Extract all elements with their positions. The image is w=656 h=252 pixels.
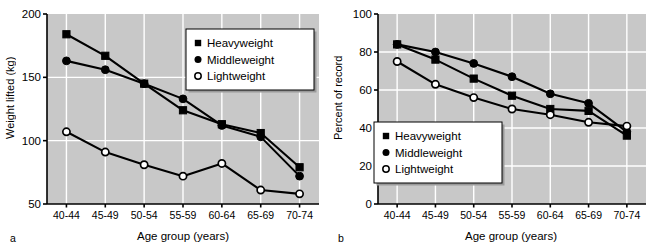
plot-area-a: 5010015020040-4445-4950-5455-5960-6465-6… <box>0 0 328 252</box>
panel-letter-b: b <box>338 232 344 244</box>
data-point-marker-heavyweight <box>102 52 109 59</box>
x-tick-label: 45-49 <box>422 209 449 221</box>
data-point-marker-middleweight <box>218 122 226 130</box>
legend-label-middleweight: Middleweight <box>395 147 463 159</box>
data-point-marker-lightweight <box>585 119 592 126</box>
data-point-marker-middleweight <box>585 99 593 107</box>
x-tick-label: 50-54 <box>131 209 158 221</box>
data-point-marker-lightweight <box>257 186 264 193</box>
y-tick-label: 150 <box>22 71 41 83</box>
y-tick-label: 0 <box>366 198 372 210</box>
data-point-marker-middleweight <box>546 90 554 98</box>
panel-letter-a: a <box>10 232 16 244</box>
chart-panel-b: Percent of record 02040608010040-4445-49… <box>328 0 656 252</box>
data-point-marker-middleweight <box>179 95 187 103</box>
data-point-marker-middleweight <box>432 48 440 56</box>
data-point-marker-lightweight <box>470 94 477 101</box>
legend-label-lightweight: Lightweight <box>395 163 454 175</box>
legend-marker-lightweight <box>195 73 201 79</box>
data-point-marker-lightweight <box>179 173 186 180</box>
x-tick-label: 55-59 <box>499 209 526 221</box>
legend-marker-lightweight <box>383 166 389 172</box>
data-point-marker-heavyweight <box>432 56 439 63</box>
y-tick-label: 60 <box>359 84 372 96</box>
data-point-marker-lightweight <box>296 190 303 197</box>
data-point-marker-lightweight <box>623 123 630 130</box>
data-point-marker-heavyweight <box>296 164 303 171</box>
chart-svg-b: 02040608010040-4445-4950-5455-5960-6465-… <box>328 0 656 252</box>
data-point-marker-heavyweight <box>63 31 70 38</box>
legend-label-heavyweight: Heavyweight <box>395 130 462 142</box>
legend-marker-middleweight <box>383 149 390 156</box>
chart-panel-a: Weight lifted (kg) 5010015020040-4445-49… <box>0 0 328 252</box>
data-point-marker-lightweight <box>63 128 70 135</box>
legend-marker-middleweight <box>195 56 202 63</box>
x-tick-label: 60-64 <box>208 209 235 221</box>
legend-marker-heavyweight <box>195 40 201 46</box>
x-tick-label: 70-74 <box>286 209 313 221</box>
data-point-marker-middleweight <box>296 172 304 180</box>
data-point-marker-middleweight <box>470 60 478 68</box>
data-point-marker-middleweight <box>101 66 109 74</box>
data-point-marker-lightweight <box>432 81 439 88</box>
figure-container: Weight lifted (kg) 5010015020040-4445-49… <box>0 0 656 252</box>
y-tick-label: 40 <box>359 122 372 134</box>
data-point-marker-heavyweight <box>585 107 592 114</box>
data-point-marker-middleweight <box>257 133 265 141</box>
legend-label-middleweight: Middleweight <box>207 54 275 66</box>
data-point-marker-middleweight <box>140 80 148 88</box>
x-axis-label-b: Age group (years) <box>376 230 646 242</box>
legend-label-lightweight: Lightweight <box>207 70 266 82</box>
x-tick-label: 70-74 <box>613 209 640 221</box>
data-point-marker-lightweight <box>141 161 148 168</box>
x-tick-label: 40-44 <box>53 209 80 221</box>
y-tick-label: 20 <box>359 160 372 172</box>
x-tick-label: 40-44 <box>384 209 411 221</box>
x-axis-label-a: Age group (years) <box>48 230 318 242</box>
data-point-marker-lightweight <box>218 160 225 167</box>
data-point-marker-heavyweight <box>179 107 186 114</box>
data-point-marker-middleweight <box>63 57 71 65</box>
x-tick-label: 55-59 <box>170 209 197 221</box>
data-point-marker-lightweight <box>102 148 109 155</box>
data-point-marker-middleweight <box>393 41 401 49</box>
data-point-marker-lightweight <box>547 111 554 118</box>
y-tick-label: 80 <box>359 46 372 58</box>
y-tick-label: 100 <box>22 135 41 147</box>
y-tick-label: 100 <box>353 8 372 20</box>
data-point-marker-middleweight <box>508 73 516 81</box>
x-tick-label: 65-69 <box>575 209 602 221</box>
x-tick-label: 65-69 <box>247 209 274 221</box>
data-point-marker-heavyweight <box>470 75 477 82</box>
legend-label-heavyweight: Heavyweight <box>207 37 274 49</box>
y-tick-label: 50 <box>28 198 41 210</box>
chart-svg-a: 5010015020040-4445-4950-5455-5960-6465-6… <box>0 0 328 252</box>
y-tick-label: 200 <box>22 8 41 20</box>
plot-area-b: 02040608010040-4445-4950-5455-5960-6465-… <box>328 0 656 252</box>
data-point-marker-lightweight <box>508 105 515 112</box>
data-point-marker-lightweight <box>394 58 401 65</box>
x-tick-label: 45-49 <box>92 209 119 221</box>
legend-marker-heavyweight <box>383 133 389 139</box>
data-point-marker-heavyweight <box>508 92 515 99</box>
x-tick-label: 50-54 <box>460 209 487 221</box>
x-tick-label: 60-64 <box>537 209 564 221</box>
